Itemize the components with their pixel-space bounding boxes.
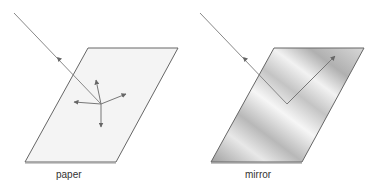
mirror-label: mirror	[245, 169, 272, 180]
mirror-panel: mirror	[200, 13, 364, 180]
reflection-diagram: paper mirror	[0, 0, 382, 183]
paper-panel: paper	[14, 13, 178, 180]
mirror-sheet	[211, 48, 364, 162]
paper-label: paper	[56, 169, 82, 180]
